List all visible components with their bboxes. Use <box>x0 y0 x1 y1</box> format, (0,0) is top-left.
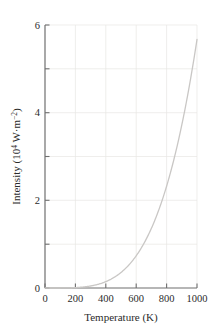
y-axis-title-tail: ) <box>10 108 23 112</box>
xtick-label-600: 600 <box>128 293 144 304</box>
y-axis-title: Intensity (104 W·m−2) <box>10 108 24 205</box>
blackbody-intensity-chart: 0 2 4 6 0 200 400 600 800 1000 Temperatu… <box>0 0 217 332</box>
xtick-label-1000: 1000 <box>187 293 208 304</box>
xtick-label-400: 400 <box>98 293 114 304</box>
xtick-label-800: 800 <box>159 293 175 304</box>
y-axis-title-lead: Intensity (10 <box>10 148 23 204</box>
x-axis-title: Temperature (K) <box>84 311 158 324</box>
svg-text:Intensity (104 W·m−2): Intensity (104 W·m−2) <box>10 108 24 205</box>
ytick-label-4: 4 <box>35 107 41 118</box>
y-axis-title-mid: W·m <box>10 119 22 145</box>
chart-figure: 0 2 4 6 0 200 400 600 800 1000 Temperatu… <box>0 0 217 332</box>
chart-background <box>0 0 217 332</box>
ytick-label-0: 0 <box>35 283 40 294</box>
ytick-label-2: 2 <box>35 195 40 206</box>
ytick-label-6: 6 <box>35 20 40 31</box>
xtick-label-200: 200 <box>68 293 84 304</box>
xtick-label-0: 0 <box>42 293 47 304</box>
